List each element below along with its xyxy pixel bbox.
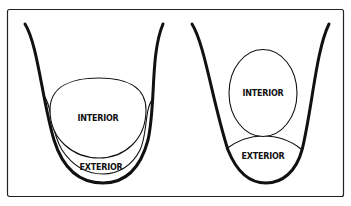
left-interior-label: INTERIOR xyxy=(77,114,118,123)
left-exterior-label: EXTERIOR xyxy=(79,163,122,172)
right-interior-label: INTERIOR xyxy=(242,89,283,98)
right-exterior-arc xyxy=(226,136,301,149)
left-panel: INTERIOR EXTERIOR xyxy=(25,24,163,183)
right-panel: INTERIOR EXTERIOR xyxy=(192,24,329,183)
diagram-canvas: INTERIOR EXTERIOR INTERIOR EXTERIOR xyxy=(0,0,351,206)
right-exterior-label: EXTERIOR xyxy=(241,152,284,161)
